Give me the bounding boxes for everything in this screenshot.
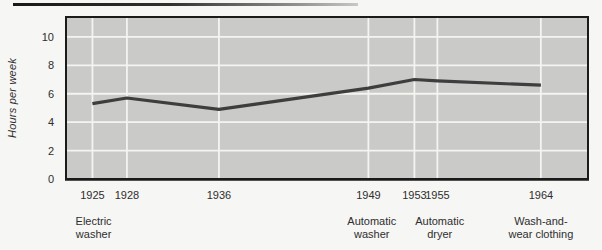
x-tick-label: 1936 — [207, 189, 231, 201]
y-axis-title: Hours per week — [6, 58, 18, 138]
y-tick-label: 0 — [48, 173, 54, 185]
annotation-label: Automatic — [415, 215, 464, 227]
annotation-label: wear clothing — [507, 228, 573, 240]
x-tick-label: 1955 — [425, 189, 449, 201]
annotation-label: dryer — [427, 228, 452, 240]
x-tick-label: 1949 — [356, 189, 380, 201]
y-tick-label: 8 — [48, 59, 54, 71]
annotation-label: washer — [353, 228, 390, 240]
annotation-label: Wash-and- — [514, 215, 568, 227]
y-tick-label: 2 — [48, 145, 54, 157]
annotation-label: Electric — [76, 215, 113, 227]
x-tick-label: 1925 — [80, 189, 104, 201]
x-tick-label: 1953 — [402, 189, 426, 201]
scanned-textbook-figure: { "chart_data": { "type": "line", "title… — [0, 0, 602, 250]
annotation-label: Automatic — [347, 215, 396, 227]
x-tick-label: 1928 — [115, 189, 139, 201]
y-tick-label: 10 — [42, 31, 54, 43]
x-tick-label: 1964 — [529, 189, 553, 201]
plot-area — [66, 17, 588, 179]
y-tick-label: 6 — [48, 88, 54, 100]
laundry-hours-line-chart: 02468101925192819361949195319551964Elect… — [0, 0, 602, 250]
annotation-label: washer — [75, 228, 112, 240]
y-tick-label: 4 — [48, 116, 54, 128]
